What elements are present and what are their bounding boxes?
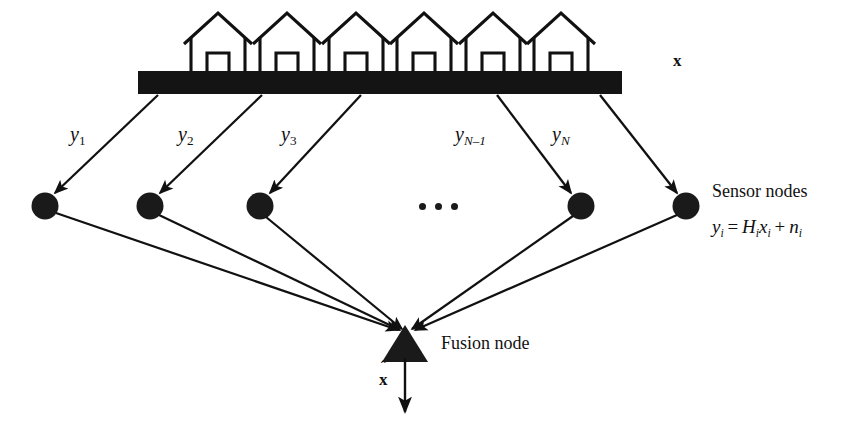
channel-label-yN-sub: N xyxy=(561,133,570,148)
channel-label-y3-sub: 3 xyxy=(290,133,297,148)
sensor-nodes-title: Sensor nodes xyxy=(712,182,808,200)
eq-term3: n xyxy=(789,216,799,237)
house-row xyxy=(184,13,595,72)
channel-label-yN-base: y xyxy=(552,123,561,145)
fusion-output-label-text: x xyxy=(379,371,388,388)
eq-term3-sub: i xyxy=(799,227,802,240)
fusion-link-1 xyxy=(56,213,398,330)
observation-links xyxy=(55,95,677,193)
figure-canvas: x y1 y2 y3 yN–1 yN Sensor nodes yi = Hix… xyxy=(0,0,866,431)
sensor-node-3 xyxy=(247,193,274,220)
eq-lhs-sub: i xyxy=(720,227,723,240)
eq-plus: + xyxy=(775,216,786,237)
house-icon-4 xyxy=(390,13,458,72)
eq-term1: H xyxy=(742,216,756,237)
sensor-node-1 xyxy=(32,193,59,220)
channel-label-y3-base: y xyxy=(281,123,290,145)
channel-label-y2: y2 xyxy=(178,124,193,144)
fusion-output-label: x xyxy=(379,371,388,388)
sensor-ellipsis xyxy=(419,203,458,210)
link-y2 xyxy=(160,95,262,193)
sensor-node-N-1 xyxy=(568,193,595,220)
fusion-node-triangle xyxy=(382,325,428,362)
fusion-node-label: Fusion node xyxy=(441,334,530,352)
channel-label-y3: y3 xyxy=(281,124,296,144)
sensor-equation: yi = Hixi + ni xyxy=(712,217,802,236)
channel-label-y2-base: y xyxy=(178,123,187,145)
ellipsis-dot-1 xyxy=(419,203,426,210)
channel-label-yN-1-base: y xyxy=(455,123,464,145)
sensor-node-group xyxy=(32,193,700,220)
source-label-x: x xyxy=(673,52,682,69)
house-icon-1 xyxy=(184,13,252,72)
eq-equals: = xyxy=(728,216,739,237)
channel-label-y1: y1 xyxy=(70,124,85,144)
fusion-links xyxy=(56,213,677,330)
channel-label-yN: yN xyxy=(552,124,570,144)
eq-term1-sub: i xyxy=(756,227,759,240)
eq-term2: x xyxy=(759,216,767,237)
fusion-link-3 xyxy=(266,217,402,329)
house-icon-3 xyxy=(322,13,390,72)
channel-label-yN-1-sub: N–1 xyxy=(464,133,486,148)
channel-label-yN-1: yN–1 xyxy=(455,124,486,144)
ellipsis-dot-3 xyxy=(451,203,458,210)
house-icon-5 xyxy=(459,13,527,72)
channel-label-y2-sub: 2 xyxy=(187,133,194,148)
house-icon-6 xyxy=(527,13,595,72)
channel-label-y1-sub: 1 xyxy=(79,133,86,148)
eq-term2-sub: i xyxy=(768,227,771,240)
channel-label-y1-base: y xyxy=(70,123,79,145)
link-yN xyxy=(600,95,677,193)
fusion-link-2 xyxy=(159,215,400,330)
source-field-bar xyxy=(138,71,622,94)
fusion-link-N-1 xyxy=(412,216,573,329)
ellipsis-dot-2 xyxy=(435,203,442,210)
fusion-link-N xyxy=(415,215,677,330)
house-icon-2 xyxy=(253,13,321,72)
